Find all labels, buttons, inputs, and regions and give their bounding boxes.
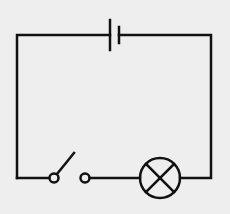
switch-terminal-right <box>81 174 90 183</box>
switch-terminal-left <box>50 174 59 183</box>
wire-top-right <box>119 35 211 178</box>
battery-icon <box>110 20 119 50</box>
switch-icon <box>50 153 90 183</box>
wire-top-left <box>17 35 110 178</box>
circuit-canvas <box>0 0 230 214</box>
lamp-icon <box>140 158 180 198</box>
switch-lever <box>57 153 74 174</box>
